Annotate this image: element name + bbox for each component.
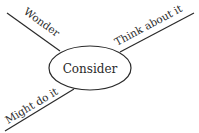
branch-label-wonder: Wonder [22,5,63,39]
mind-map-diagram: Consider Wonder Think about it Might do … [0,0,199,133]
branch-label-think-about-it: Think about it [112,2,184,48]
center-node-label: Consider [63,62,118,76]
branch-label-might-do-it: Might do it [3,85,61,126]
